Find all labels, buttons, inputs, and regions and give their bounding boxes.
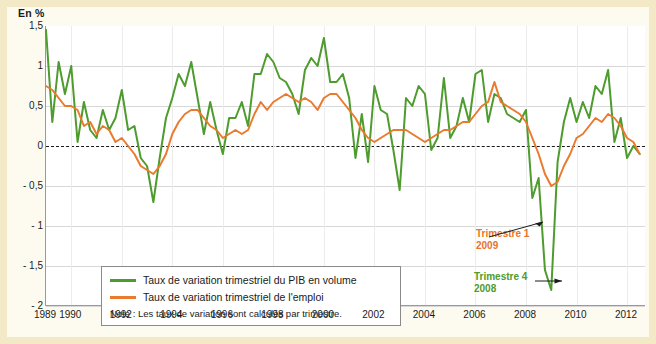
x-tick-3: 1994	[160, 309, 182, 320]
y-tick-6: - 1,5	[3, 260, 43, 271]
x-tick-4: 1996	[211, 309, 233, 320]
decorative-border-top	[0, 0, 656, 7]
x-tick-5: 1998	[261, 309, 283, 320]
y-tick-2: 0,5	[3, 100, 43, 111]
x-tick-12: 2012	[615, 309, 637, 320]
legend-note: Note : Les taux de variation sont calcul…	[110, 308, 392, 319]
y-axis-tick-labels: 1,510,50- 0,5- 1- 1,5- 2	[0, 0, 43, 344]
x-tick-2: 1992	[110, 309, 132, 320]
y-tick-0: 1,5	[3, 20, 43, 31]
decorative-border-right	[649, 0, 656, 344]
decorative-border-bottom	[0, 337, 656, 344]
x-tick-11: 2010	[564, 309, 586, 320]
x-tick-6: 2000	[312, 309, 334, 320]
chart-figure: En % 1,510,50- 0,5- 1- 1,5- 2 Taux de va…	[0, 0, 656, 344]
x-tick-10: 2008	[514, 309, 536, 320]
y-tick-1: 1	[3, 60, 43, 71]
y-tick-3: 0	[3, 140, 43, 151]
x-tick-0: 1989	[34, 309, 56, 320]
annotation-arrows	[46, 26, 646, 306]
y-tick-5: - 1	[3, 220, 43, 231]
plot-area: Taux de variation trimestriel du PIB en …	[45, 26, 645, 306]
x-tick-8: 2004	[413, 309, 435, 320]
x-tick-1: 1990	[59, 309, 81, 320]
x-tick-7: 2002	[362, 309, 384, 320]
x-tick-9: 2006	[463, 309, 485, 320]
y-tick-4: - 0,5	[3, 180, 43, 191]
